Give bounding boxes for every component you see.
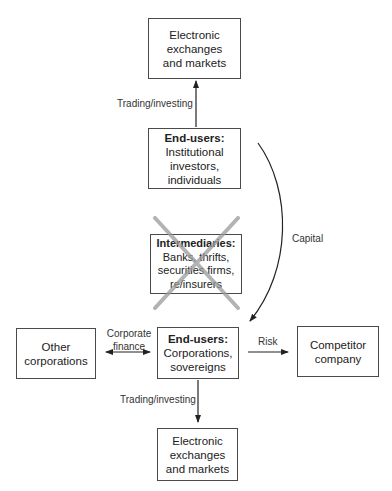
node-text: investors,	[170, 159, 219, 173]
node-text: Competitor	[310, 338, 366, 352]
node-other-corporations: Other corporations	[16, 328, 96, 379]
node-end-users-investors: End-users: Institutional investors, indi…	[148, 128, 241, 189]
risk-label: Risk	[258, 336, 277, 347]
corporate-finance-label-line2: finance	[104, 340, 154, 353]
node-text: exchanges	[167, 42, 223, 56]
node-text: Electronic	[172, 434, 223, 448]
node-text: securities firms,	[158, 264, 234, 278]
node-text: and markets	[163, 56, 226, 70]
capital-label: Capital	[292, 233, 323, 244]
node-text: and markets	[166, 462, 229, 476]
corporate-finance-label: Corporate finance	[104, 327, 154, 353]
capital-curved-arrow	[250, 143, 283, 321]
node-text: individuals	[168, 173, 222, 187]
node-end-users-corporations: End-users: Corporations, sovereigns	[157, 327, 239, 379]
node-text: Institutional	[165, 145, 223, 159]
node-title: End-users:	[168, 332, 228, 346]
node-intermediaries: Intermediaries: Banks, thrifts, securiti…	[150, 234, 242, 294]
trading-down-label: Trading/investing	[120, 394, 196, 405]
node-text: corporations	[24, 354, 87, 368]
node-text: company	[315, 352, 362, 366]
node-text: Other	[42, 340, 71, 354]
node-bottom-exchanges: Electronic exchanges and markets	[157, 428, 238, 481]
node-text: exchanges	[170, 448, 226, 462]
node-text: sovereigns	[170, 360, 226, 374]
node-text: Electronic	[169, 28, 220, 42]
node-title: End-users:	[164, 131, 224, 145]
node-text: Banks, thrifts,	[163, 251, 230, 265]
corporate-finance-label-line1: Corporate	[104, 327, 154, 340]
node-title: Intermediaries:	[157, 237, 236, 251]
trading-up-label: Trading/investing	[117, 98, 193, 109]
node-text: Corporations,	[163, 346, 232, 360]
node-top-exchanges: Electronic exchanges and markets	[148, 18, 241, 79]
node-text: re/insurers	[170, 278, 222, 292]
node-competitor: Competitor company	[297, 326, 379, 377]
